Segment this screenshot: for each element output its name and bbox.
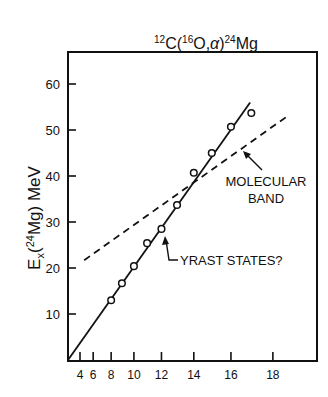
yrast-states-annotation: YRAST STATES? — [162, 236, 283, 268]
x-tick-label: 4 — [77, 368, 84, 382]
arrow-head-icon — [162, 236, 169, 245]
x-tick-label: 12 — [155, 368, 169, 382]
plot-frame — [68, 52, 317, 361]
y-tick-label: 10 — [46, 307, 60, 322]
data-point — [191, 169, 198, 176]
data-point — [158, 226, 165, 233]
y-tick-label: 20 — [46, 261, 60, 276]
molecular-band-annotation: MOLECULAR BAND — [226, 151, 307, 206]
data-point — [119, 280, 126, 287]
y-axis-ticks: 102030405060 — [46, 77, 76, 322]
data-points — [108, 110, 255, 304]
x-tick-label: 18 — [266, 368, 280, 382]
x-tick-label: 6 — [90, 368, 97, 382]
data-point — [174, 202, 181, 209]
data-point — [131, 263, 138, 270]
band-label: BAND — [248, 191, 284, 206]
x-axis-ticks: 4681012141618 — [77, 352, 280, 382]
x-tick-label: 16 — [224, 368, 238, 382]
molecular-label: MOLECULAR — [226, 174, 307, 189]
chart-title: 12C(16O,α)24Mg — [154, 34, 258, 52]
data-point — [208, 150, 215, 157]
y-tick-label: 60 — [46, 77, 60, 92]
data-point — [248, 110, 255, 117]
data-point — [108, 297, 115, 304]
chart: 12C(16O,α)24Mg Ex(24Mg) MeV 102030405060… — [0, 0, 328, 397]
yrast-states-label: YRAST STATES? — [180, 253, 283, 268]
x-tick-label: 14 — [187, 368, 201, 382]
y-axis-label: Ex(24Mg) MeV — [24, 165, 46, 269]
y-tick-label: 40 — [46, 169, 60, 184]
y-tick-label: 30 — [46, 215, 60, 230]
data-point — [228, 123, 235, 130]
data-point — [144, 240, 151, 247]
x-tick-label: 10 — [127, 368, 141, 382]
y-tick-label: 50 — [46, 123, 60, 138]
x-tick-label: 8 — [108, 368, 115, 382]
